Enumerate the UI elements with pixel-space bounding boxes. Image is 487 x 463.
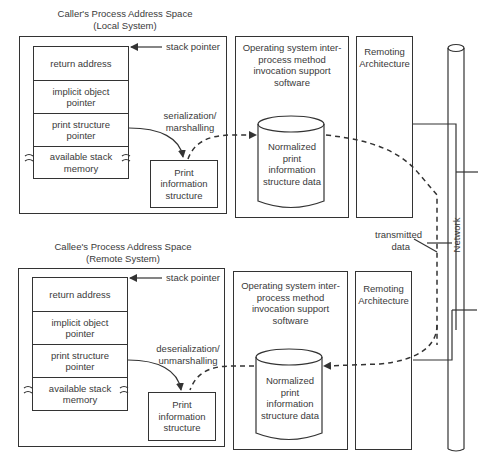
caller-break-right — [122, 155, 130, 162]
caller-cylinder-icon — [258, 116, 324, 208]
caller-network-connection — [413, 124, 456, 330]
callee-break-left — [24, 387, 32, 394]
transmitted-pointer — [414, 239, 437, 252]
diagram-lines — [0, 0, 487, 463]
caller-to-cylinder-flow — [188, 135, 256, 159]
callee-cylinder-icon — [256, 349, 322, 440]
callee-pointer-arrow — [128, 360, 181, 390]
caller-break-left — [25, 155, 33, 162]
network-transmission-flow — [326, 135, 437, 345]
callee-cylinder-to-print-flow — [190, 366, 254, 390]
caller-pointer-arrow — [129, 128, 183, 157]
callee-network-connection — [413, 310, 452, 360]
callee-break-right — [120, 387, 128, 394]
